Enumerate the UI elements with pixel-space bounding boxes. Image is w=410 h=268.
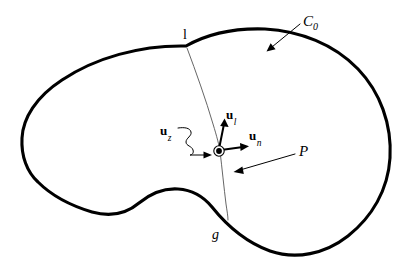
label-vector-u-l: ul (226, 108, 236, 125)
vector-u-z-leader (178, 128, 206, 155)
label-vector-u-z-base: u (160, 123, 167, 138)
label-vector-u-z-subscript: z (168, 133, 172, 143)
leader-line-p (240, 154, 295, 170)
label-vector-u-l-subscript: l (234, 117, 237, 127)
diagram-canvas (0, 0, 410, 268)
label-arc-length-bottom: g (212, 228, 219, 242)
vector-u-z-head (204, 151, 213, 158)
vector-u-l-shaft (219, 124, 224, 149)
label-outer-contour-subscript: 0 (313, 21, 318, 32)
leader-line-c0 (272, 24, 300, 47)
leader-arrowhead-c0 (267, 43, 276, 51)
label-arc-length-top: l (183, 28, 187, 42)
label-vector-u-z: uz (160, 124, 171, 141)
outer-boundary-curve (22, 29, 390, 255)
label-point-p: P (299, 144, 308, 159)
label-outer-contour-base: C (303, 13, 313, 29)
label-vector-u-n: un (249, 129, 261, 146)
label-vector-u-n-base: u (249, 128, 256, 143)
leader-arrowhead-p (234, 167, 244, 175)
vector-u-n-head (240, 143, 249, 151)
label-vector-u-n-subscript: n (257, 138, 262, 148)
label-outer-contour: C0 (303, 14, 318, 32)
label-vector-u-l-base: u (226, 107, 233, 122)
origin-dot (216, 148, 222, 154)
figure-root: C0 l g P ul un uz (0, 0, 410, 268)
